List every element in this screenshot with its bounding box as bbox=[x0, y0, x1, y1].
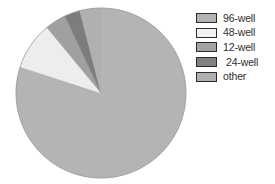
legend-label-24-well: 24-well bbox=[226, 57, 258, 68]
legend-label-96-well: 96-well bbox=[223, 13, 255, 24]
legend-item-other[interactable]: other bbox=[196, 69, 274, 84]
legend-label-48-well: 48-well bbox=[223, 27, 255, 38]
legend-swatch-other bbox=[196, 72, 217, 82]
legend-item-48-well[interactable]: 48-well bbox=[196, 26, 274, 41]
legend-item-96-well[interactable]: 96-well bbox=[196, 11, 274, 26]
legend-swatch-24-well bbox=[196, 57, 217, 67]
legend-item-12-well[interactable]: 12-well bbox=[196, 40, 274, 55]
pie-chart-svg bbox=[0, 0, 192, 184]
legend-item-24-well[interactable]: 24-well bbox=[196, 55, 274, 70]
legend-swatch-12-well bbox=[196, 42, 217, 52]
pie-chart-figure: 96-well 48-well 12-well 24-well other bbox=[0, 0, 275, 184]
legend-label-12-well: 12-well bbox=[223, 42, 255, 53]
legend-swatch-96-well bbox=[196, 13, 217, 23]
pie-slice-group bbox=[16, 8, 186, 178]
legend-swatch-48-well bbox=[196, 28, 217, 38]
legend-label-other: other bbox=[223, 71, 246, 82]
pie-plot-area bbox=[0, 0, 192, 184]
legend: 96-well 48-well 12-well 24-well other bbox=[196, 11, 274, 84]
